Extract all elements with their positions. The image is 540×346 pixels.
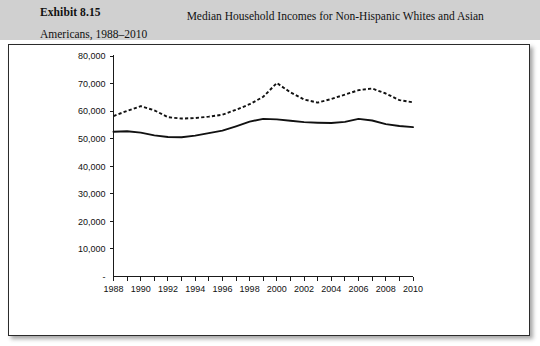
y-axis-tick-label: 40,000 <box>78 162 106 172</box>
y-axis-tick-label: 70,000 <box>78 79 106 89</box>
y-axis-tick-label: 80,000 <box>78 51 106 61</box>
series-line-non-hispanic-whites <box>114 119 414 137</box>
x-axis-tick-label: 1988 <box>103 284 123 294</box>
x-axis-ticks: 1988199019921994199619982000200220042006… <box>103 277 423 294</box>
x-axis-tick-label: 2004 <box>321 284 341 294</box>
x-axis-tick-label: 2006 <box>349 284 369 294</box>
y-axis-tick-label: 10,000 <box>78 244 106 254</box>
exhibit-title-row: Exhibit 8.15 Median Household Incomes fo… <box>40 6 526 42</box>
chart-panel: 10,00020,00030,00040,00050,00060,00070,0… <box>8 44 530 336</box>
exhibit-header-band: Exhibit 8.15 Median Household Incomes fo… <box>0 0 540 40</box>
x-axis-tick-label: 2000 <box>267 284 287 294</box>
y-axis-tick-label: 50,000 <box>78 134 106 144</box>
x-axis-tick-label: 1994 <box>185 284 205 294</box>
y-axis-tick-label: 20,000 <box>78 217 106 227</box>
series-line-asian <box>114 83 414 119</box>
y-axis-tick-label: 30,000 <box>78 189 106 199</box>
y-axis-zero-label: - <box>103 272 106 282</box>
y-axis-tick-label: 60,000 <box>78 106 106 116</box>
chart-svg: 10,00020,00030,00040,00050,00060,00070,0… <box>9 45 531 337</box>
exhibit-caption: Median Household Incomes for Non-Hispani… <box>40 10 484 40</box>
x-axis-tick-label: 1998 <box>240 284 260 294</box>
x-axis-tick-label: 1990 <box>131 284 151 294</box>
x-axis-tick-label: 1996 <box>212 284 232 294</box>
y-axis-ticks: 10,00020,00030,00040,00050,00060,00070,0… <box>78 51 114 281</box>
x-axis-tick-label: 2010 <box>403 284 423 294</box>
x-axis-tick-label: 1992 <box>158 284 178 294</box>
x-axis-tick-label: 2002 <box>294 284 314 294</box>
x-axis-tick-label: 2008 <box>376 284 396 294</box>
exhibit-number: Exhibit 8.15 <box>40 6 101 18</box>
line-chart: 10,00020,00030,00040,00050,00060,00070,0… <box>9 45 531 337</box>
